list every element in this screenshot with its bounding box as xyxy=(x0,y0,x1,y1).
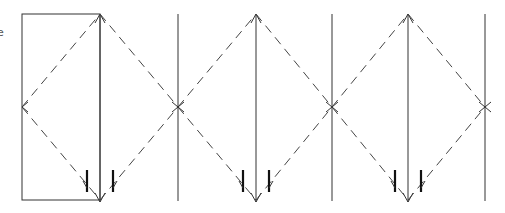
dashed-ray xyxy=(332,14,408,107)
dashed-ray xyxy=(22,107,100,200)
reflection-tip-icon xyxy=(485,102,491,112)
dashed-ray xyxy=(100,14,178,107)
dashed-ray xyxy=(332,107,408,200)
dashed-ray xyxy=(178,14,256,107)
dashed-ray xyxy=(256,14,332,107)
dashed-ray xyxy=(178,107,256,200)
box-rectangle xyxy=(22,14,100,200)
reflection-tip-icon xyxy=(479,102,485,112)
reflection-tip-icon xyxy=(326,102,332,112)
dashed-ray xyxy=(100,107,178,200)
dashed-ray xyxy=(256,107,332,200)
dashed-ray xyxy=(408,107,485,200)
mirror-diagram xyxy=(0,0,505,213)
dashed-ray xyxy=(408,14,485,107)
reflection-tip-icon xyxy=(172,102,178,112)
dashed-ray xyxy=(22,14,100,107)
